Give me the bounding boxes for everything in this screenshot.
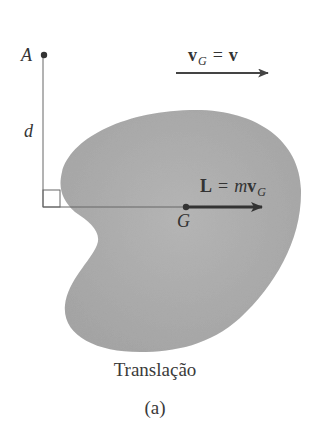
momentum-symbol: L	[200, 176, 212, 196]
velocity-rhs: v	[229, 45, 238, 65]
velocity-label: vG=v	[188, 46, 238, 64]
figure-caption: Translação	[0, 360, 310, 379]
velocity-symbol: v	[188, 45, 197, 65]
right-angle-marker	[43, 190, 60, 207]
velocity-equals: =	[213, 45, 223, 65]
figure-sublabel: (a)	[0, 398, 310, 417]
momentum-mass: m	[234, 176, 247, 196]
point-a-dot	[41, 52, 47, 58]
momentum-equals: =	[218, 176, 228, 196]
distance-label: d	[24, 122, 33, 140]
momentum-label: L=mvG	[200, 177, 266, 195]
point-a-label: A	[21, 46, 32, 64]
point-g-dot	[183, 204, 189, 210]
centroid-label: G	[177, 212, 190, 230]
velocity-subscript: G	[198, 54, 207, 68]
momentum-velocity: v	[247, 176, 256, 196]
momentum-subscript: G	[257, 185, 266, 199]
